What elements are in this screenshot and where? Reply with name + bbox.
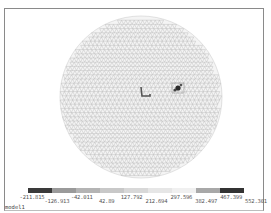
colorbar-segment <box>100 188 124 193</box>
sphere-mesh <box>60 16 222 178</box>
colorbar-segment <box>28 188 52 193</box>
colorbar-tick-label: 552.301 <box>245 198 267 204</box>
colorbar-segment <box>220 188 244 193</box>
colorbar-tick-label: 297.596 <box>170 194 192 200</box>
colorbar-segment <box>148 188 172 193</box>
colorbar-segment <box>196 188 220 193</box>
colorbar-tick-label: -42.011 <box>71 194 93 200</box>
colorbar-tick-label: 127.792 <box>121 194 143 200</box>
colorbar-tick-label: 42.89 <box>99 198 115 204</box>
colorbar-segment <box>52 188 76 193</box>
colorbar-tick-label: 467.399 <box>220 194 242 200</box>
colorbar-tick-label: 382.497 <box>195 198 217 204</box>
colorbar-segment <box>124 188 148 193</box>
model-viewport[interactable] <box>0 0 271 213</box>
colorbar-segment <box>172 188 196 193</box>
colorbar-segment <box>76 188 100 193</box>
colorbar-tick-label: -126.913 <box>44 198 69 204</box>
model-name-label: model1 <box>5 204 25 210</box>
colorbar <box>28 188 244 193</box>
colorbar-tick-label: -211.815 <box>20 194 45 200</box>
colorbar-tick-label: 212.694 <box>146 198 168 204</box>
